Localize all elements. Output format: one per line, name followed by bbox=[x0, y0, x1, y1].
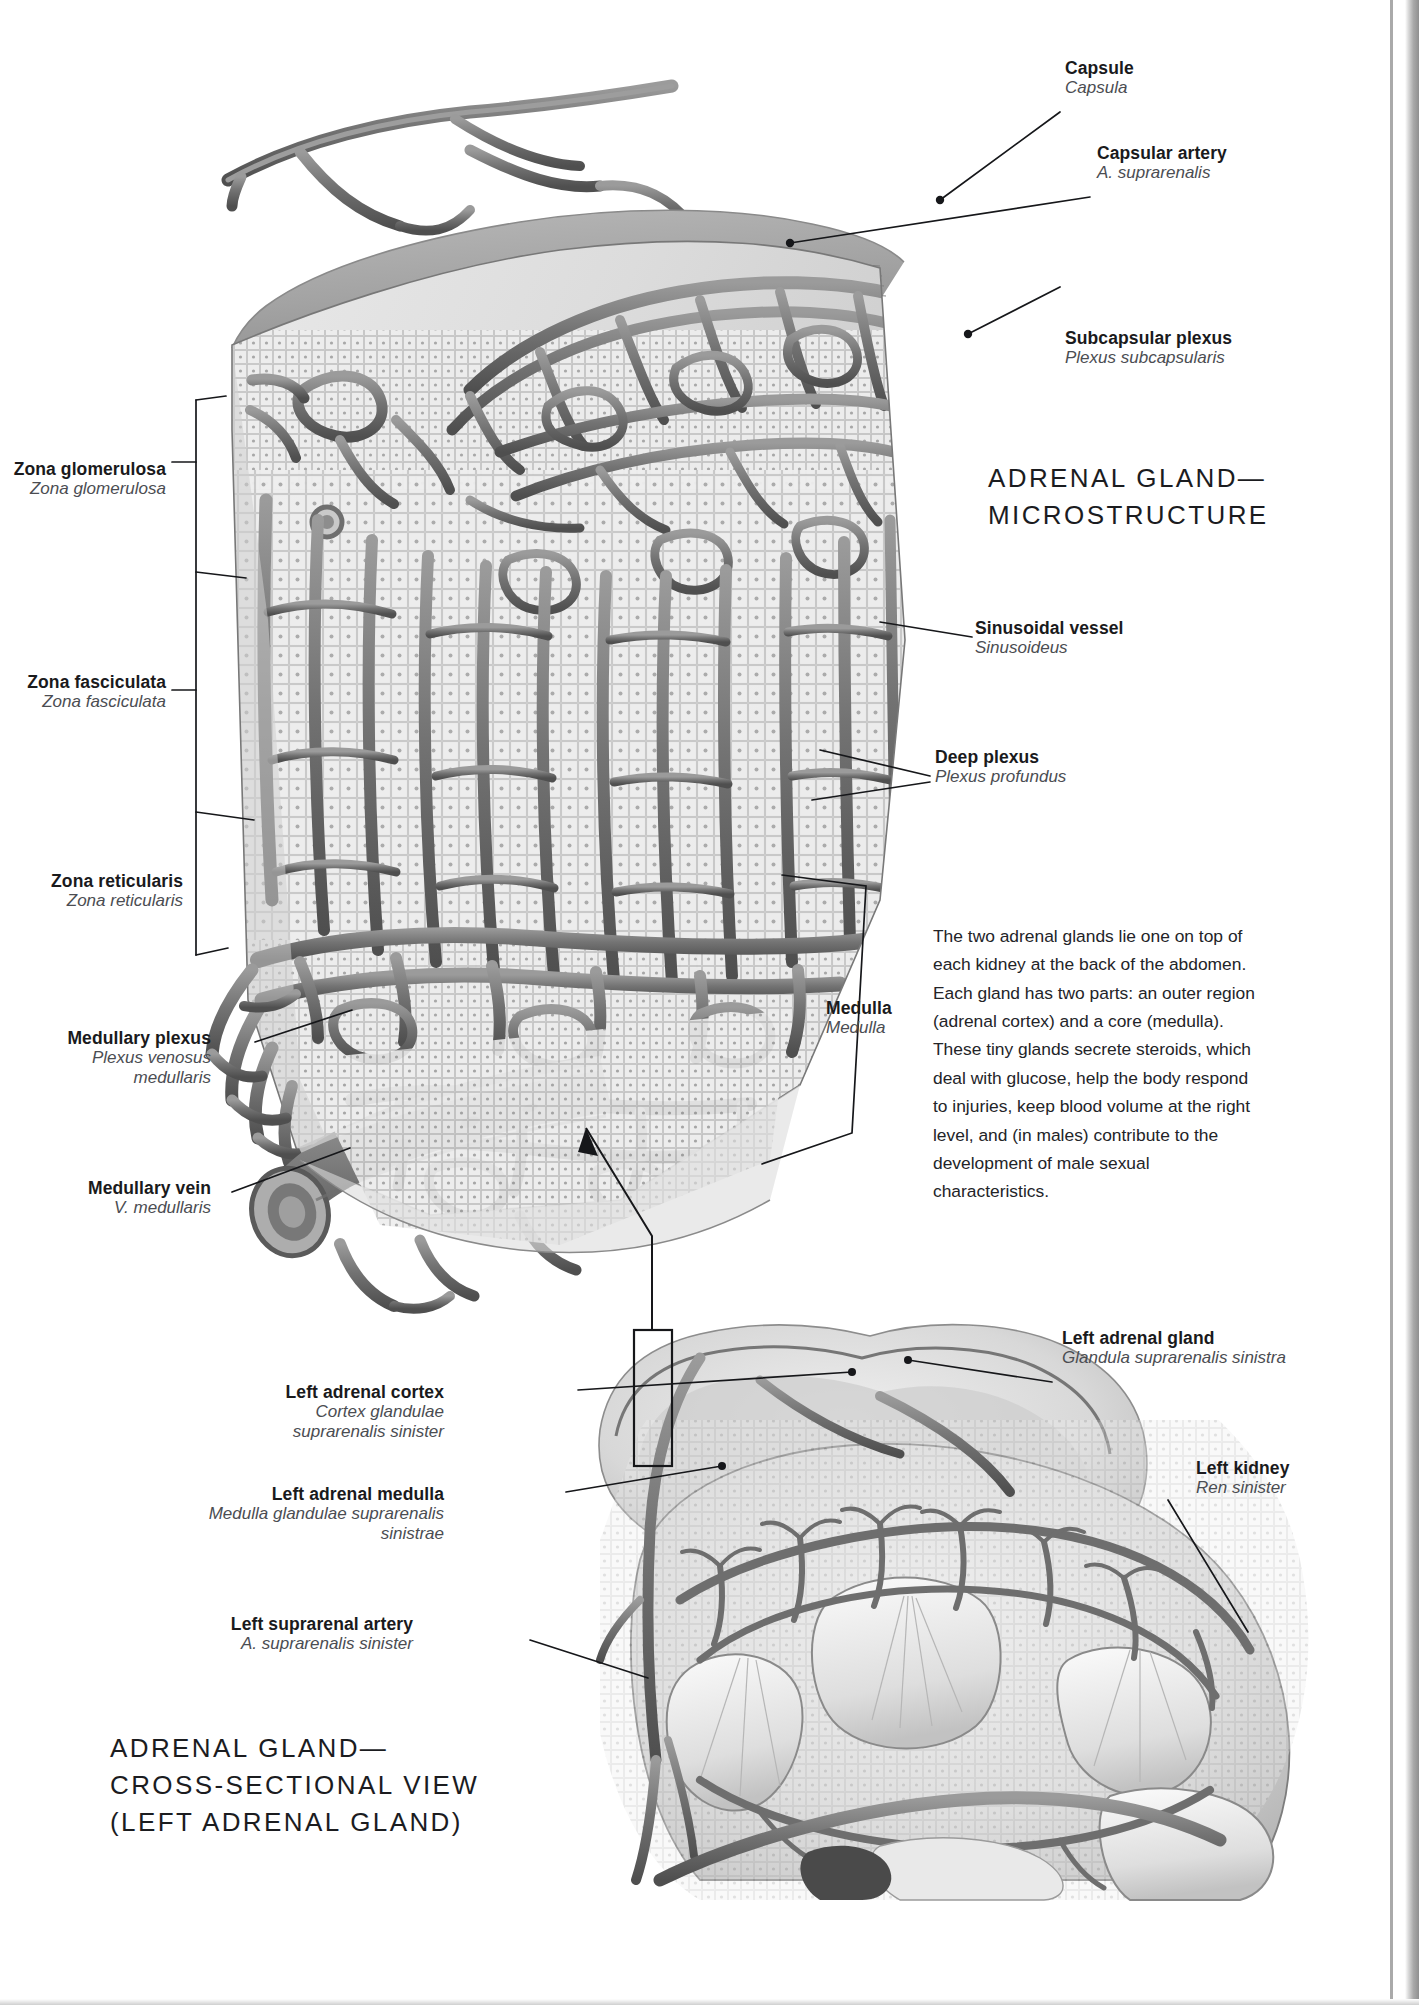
label-capsule-en: Capsule bbox=[1065, 58, 1134, 78]
label-left-adrenal-gland: Left adrenal gland Glandula suprarenalis… bbox=[1062, 1328, 1286, 1368]
label-left-adrenal-medulla-la2: sinistrae bbox=[209, 1524, 444, 1544]
wedge-cut-face bbox=[232, 345, 350, 1190]
label-capsular-artery-la: A. suprarenalis bbox=[1097, 163, 1227, 183]
illustration-page: Capsule Capsula Capsular artery A. supra… bbox=[0, 0, 1419, 2005]
page-title-bottom: ADRENAL GLAND— CROSS-SECTIONAL VIEW (LEF… bbox=[110, 1730, 479, 1841]
label-left-kidney: Left kidney Ren sinister bbox=[1196, 1458, 1289, 1498]
label-left-adrenal-cortex-en: Left adrenal cortex bbox=[286, 1382, 444, 1402]
detail-region-arrowhead bbox=[578, 1128, 598, 1156]
label-subcapsular-plexus: Subcapsular plexus Plexus subcapsularis bbox=[1065, 328, 1232, 368]
label-medullary-vein: Medullary vein V. medullaris bbox=[88, 1178, 211, 1218]
label-medulla: Medulla Medulla bbox=[826, 998, 892, 1038]
medullary-plexus-arms bbox=[212, 970, 312, 1170]
label-left-kidney-en: Left kidney bbox=[1196, 1458, 1289, 1478]
label-sinusoidal-vessel: Sinusoidal vessel Sinusoideus bbox=[975, 618, 1124, 658]
label-medullary-vein-en: Medullary vein bbox=[88, 1178, 211, 1198]
subcapsular-plexus-net bbox=[250, 283, 902, 611]
label-left-adrenal-cortex-la: Cortex glandulae bbox=[286, 1402, 444, 1422]
label-zona-glomerulosa: Zona glomerulosa Zona glomerulosa bbox=[14, 459, 166, 499]
label-left-adrenal-medulla: Left adrenal medulla Medulla glandulae s… bbox=[209, 1484, 444, 1544]
label-medullary-plexus-en: Medullary plexus bbox=[67, 1028, 211, 1048]
label-medullary-plexus-la2: medullaris bbox=[67, 1068, 211, 1088]
label-left-adrenal-medulla-en: Left adrenal medulla bbox=[209, 1484, 444, 1504]
label-capsular-artery: Capsular artery A. suprarenalis bbox=[1097, 143, 1227, 183]
label-zona-glomerulosa-la: Zona glomerulosa bbox=[14, 479, 166, 499]
label-medullary-plexus: Medullary plexus Plexus venosus medullar… bbox=[67, 1028, 211, 1088]
label-zona-glomerulosa-en: Zona glomerulosa bbox=[14, 459, 166, 479]
detail-region-arrow bbox=[586, 1128, 652, 1330]
label-left-kidney-la: Ren sinister bbox=[1196, 1478, 1289, 1498]
label-subcapsular-plexus-en: Subcapsular plexus bbox=[1065, 328, 1232, 348]
deep-plexus-net bbox=[258, 928, 902, 1066]
cortex-wedge bbox=[220, 230, 920, 1260]
label-zona-reticularis-la: Zona reticularis bbox=[51, 891, 183, 911]
vessel-lumen bbox=[312, 507, 342, 537]
page-title-bottom-line2: CROSS-SECTIONAL VIEW bbox=[110, 1767, 479, 1804]
suprarenal-artery-branches bbox=[228, 86, 698, 250]
label-medulla-en: Medulla bbox=[826, 998, 892, 1018]
medulla-base-tissue bbox=[280, 1000, 820, 1270]
left-suprarenal-artery-vessel bbox=[600, 1358, 700, 1880]
label-zona-reticularis-en: Zona reticularis bbox=[51, 871, 183, 891]
label-left-adrenal-gland-la: Glandula suprarenalis sinistra bbox=[1062, 1348, 1286, 1368]
label-deep-plexus-en: Deep plexus bbox=[935, 747, 1066, 767]
page-edge-right bbox=[1405, 0, 1419, 2005]
label-left-adrenal-cortex: Left adrenal cortex Cortex glandulae sup… bbox=[286, 1382, 444, 1442]
label-left-adrenal-cortex-la2: suprarenalis sinister bbox=[286, 1422, 444, 1442]
wedge-outline bbox=[232, 241, 905, 1215]
label-medullary-plexus-la: Plexus venosus bbox=[67, 1048, 211, 1068]
label-deep-plexus: Deep plexus Plexus profundus bbox=[935, 747, 1066, 787]
page-edge-bottom bbox=[0, 1999, 1419, 2005]
capsule-surface bbox=[232, 210, 904, 384]
label-left-suprarenal-artery-la: A. suprarenalis sinister bbox=[231, 1634, 413, 1654]
label-left-adrenal-medulla-la: Medulla glandulae suprarenalis bbox=[209, 1504, 444, 1524]
label-subcapsular-plexus-la: Plexus subcapsularis bbox=[1065, 348, 1232, 368]
label-zona-fasciculata: Zona fasciculata Zona fasciculata bbox=[27, 672, 166, 712]
sinusoidal-vessels bbox=[264, 500, 896, 982]
label-capsule: Capsule Capsula bbox=[1065, 58, 1134, 98]
page-title-bottom-line3: (LEFT ADRENAL GLAND) bbox=[110, 1804, 479, 1841]
page-title-bottom-line1: ADRENAL GLAND— bbox=[110, 1730, 479, 1767]
page-title-top-line2: MICROSTRUCTURE bbox=[988, 497, 1269, 534]
label-sinusoidal-vessel-la: Sinusoideus bbox=[975, 638, 1124, 658]
label-zona-fasciculata-la: Zona fasciculata bbox=[27, 692, 166, 712]
label-medullary-vein-la: V. medullaris bbox=[88, 1198, 211, 1218]
medullary-plexus-net bbox=[352, 1092, 750, 1217]
description-paragraph: The two adrenal glands lie one on top of… bbox=[933, 922, 1255, 1206]
label-zona-reticularis: Zona reticularis Zona reticularis bbox=[51, 871, 183, 911]
label-deep-plexus-la: Plexus profundus bbox=[935, 767, 1066, 787]
page-edge-line bbox=[1390, 0, 1393, 2005]
label-left-suprarenal-artery: Left suprarenal artery A. suprarenalis s… bbox=[231, 1614, 413, 1654]
bottom-illustration bbox=[578, 1128, 1340, 1920]
medullary-vein bbox=[242, 1056, 612, 1309]
label-left-suprarenal-artery-en: Left suprarenal artery bbox=[231, 1614, 413, 1634]
label-capsular-artery-en: Capsular artery bbox=[1097, 143, 1227, 163]
label-sinusoidal-vessel-en: Sinusoidal vessel bbox=[975, 618, 1124, 638]
label-zona-fasciculata-en: Zona fasciculata bbox=[27, 672, 166, 692]
label-capsule-la: Capsula bbox=[1065, 78, 1134, 98]
page-title-top: ADRENAL GLAND— MICROSTRUCTURE bbox=[988, 460, 1269, 534]
page-title-top-line1: ADRENAL GLAND— bbox=[988, 460, 1269, 497]
label-medulla-la: Medulla bbox=[826, 1018, 892, 1038]
detail-region-box bbox=[634, 1330, 672, 1466]
label-left-adrenal-gland-en: Left adrenal gland bbox=[1062, 1328, 1286, 1348]
